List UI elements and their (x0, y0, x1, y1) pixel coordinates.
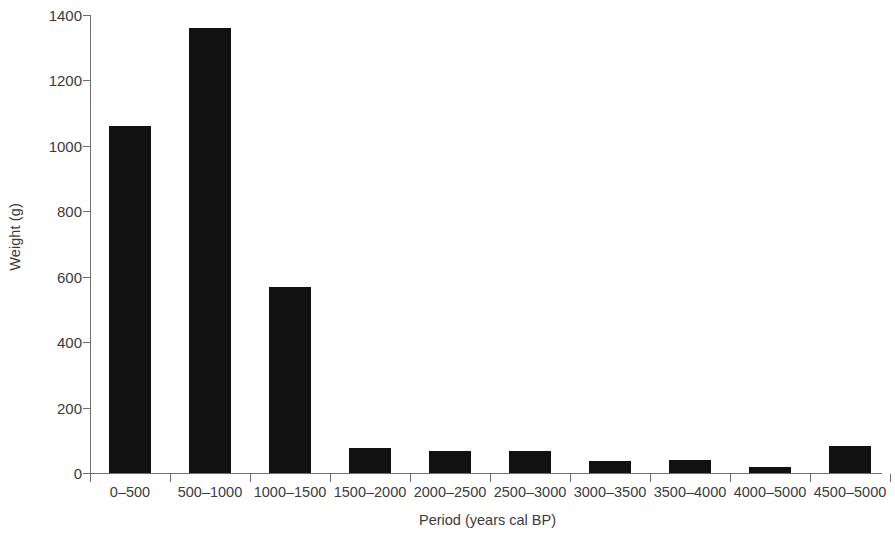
y-axis-tick-label: 800 (36, 203, 82, 220)
y-axis-title: Weight (g) (0, 0, 30, 473)
x-axis-tick-mark (650, 474, 651, 482)
bar (749, 467, 791, 473)
y-axis-tick-mark (83, 342, 90, 343)
x-axis-tick-mark (410, 474, 411, 482)
y-axis-tick-label: 1200 (36, 72, 82, 89)
x-axis-title: Period (years cal BP) (90, 512, 885, 528)
bar (669, 460, 711, 473)
x-axis-tick-mark (890, 474, 891, 482)
y-axis-tick-labels: 0200400600800100012001400 (30, 0, 82, 538)
x-axis-tick-mark (170, 474, 171, 482)
y-axis-tick-label: 200 (36, 399, 82, 416)
y-axis-tick-mark (83, 15, 90, 16)
bar (349, 448, 391, 473)
x-axis-tick-label: 4500–5000 (795, 484, 895, 500)
x-axis-line (90, 473, 882, 474)
bar (509, 451, 551, 473)
x-axis-tick-mark (730, 474, 731, 482)
bar (269, 287, 311, 473)
y-axis-tick-mark (83, 146, 90, 147)
y-axis-tick-label: 1400 (36, 7, 82, 24)
x-axis-tick-mark (490, 474, 491, 482)
x-axis-tick-mark (810, 474, 811, 482)
bar (589, 461, 631, 473)
bar (829, 446, 871, 473)
bar (109, 126, 151, 473)
x-axis-tick-mark (250, 474, 251, 482)
plot-area (90, 0, 885, 473)
y-axis-tick-label: 400 (36, 334, 82, 351)
y-axis-title-text: Weight (g) (7, 203, 23, 271)
x-axis-tick-mark (570, 474, 571, 482)
y-axis-tick-label: 1000 (36, 137, 82, 154)
y-axis-tick-label: 0 (36, 465, 82, 482)
y-axis-tick-mark (83, 80, 90, 81)
y-axis-tick-mark (83, 408, 90, 409)
y-axis-tick-mark (83, 277, 90, 278)
y-axis-tick-label: 600 (36, 268, 82, 285)
x-axis-tick-mark (90, 474, 91, 482)
y-axis-tick-mark (83, 211, 90, 212)
y-axis-tick-mark (83, 473, 90, 474)
bar (189, 28, 231, 473)
x-axis-tick-mark (330, 474, 331, 482)
bar (429, 451, 471, 473)
